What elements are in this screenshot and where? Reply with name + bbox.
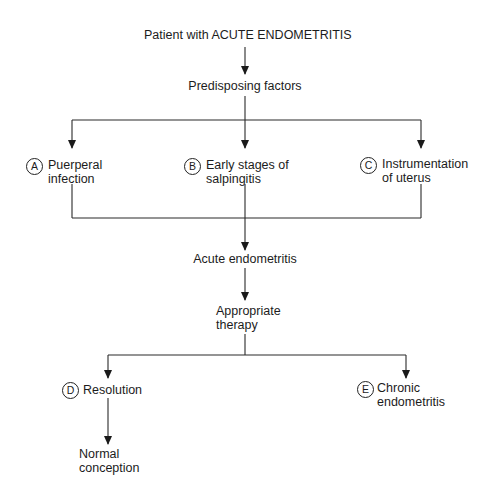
title-node: Patient with ACUTE ENDOMETRITIS bbox=[144, 28, 346, 42]
flowchart-connectors bbox=[0, 0, 491, 497]
normal-line1: Normal bbox=[79, 447, 119, 461]
node-b-line1: Early stages of bbox=[206, 158, 289, 172]
normal-line2: conception bbox=[79, 461, 139, 475]
node-c-line1: Instrumentation bbox=[382, 157, 468, 171]
badge-e: E bbox=[357, 381, 374, 398]
node-a-line1: Puerperal bbox=[48, 158, 102, 172]
node-e-line2: endometritis bbox=[377, 395, 445, 409]
node-c-line2: of uterus bbox=[382, 171, 431, 185]
node-b-line2: salpingitis bbox=[206, 172, 261, 186]
node-d-line1: Resolution bbox=[83, 383, 142, 397]
badge-c: C bbox=[360, 157, 377, 174]
therapy-line1: Appropriate bbox=[216, 304, 281, 318]
badge-a: A bbox=[26, 158, 43, 175]
predisposing-node: Predisposing factors bbox=[180, 79, 310, 93]
therapy-line2: therapy bbox=[216, 318, 258, 332]
node-e-line1: Chronic bbox=[377, 381, 420, 395]
acute-node: Acute endometritis bbox=[180, 252, 310, 266]
node-a-line2: infection bbox=[48, 172, 95, 186]
badge-d: D bbox=[62, 382, 79, 399]
badge-b: B bbox=[184, 158, 201, 175]
